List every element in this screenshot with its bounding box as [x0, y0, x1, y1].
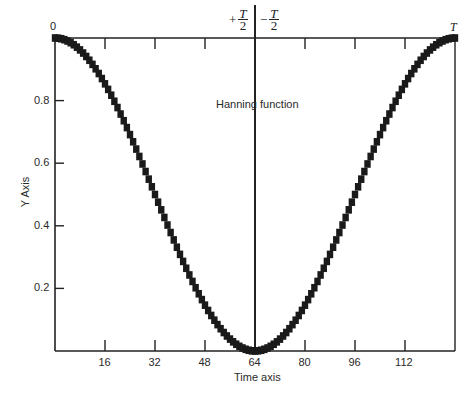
curve-marker	[346, 206, 352, 214]
plus-half-period-label: + T2	[229, 8, 248, 31]
curve-marker	[317, 271, 323, 279]
curve-marker	[327, 251, 333, 259]
curve-marker	[330, 243, 336, 251]
minus-half-period-label: − T2	[260, 8, 279, 31]
curve-marker	[114, 104, 120, 112]
curve-marker	[367, 153, 373, 161]
x-tick-label: 112	[395, 356, 413, 368]
curve-marker	[314, 278, 320, 286]
curve-marker	[117, 110, 123, 118]
curve-marker	[349, 198, 355, 206]
curve-marker	[152, 191, 158, 199]
curve-marker	[142, 168, 148, 176]
hanning-chart	[0, 0, 472, 393]
curve-marker	[155, 198, 161, 206]
curve-marker	[133, 145, 139, 153]
top-left-label: 0	[50, 20, 56, 32]
curve-marker	[121, 117, 127, 125]
curve-marker	[383, 117, 389, 125]
curve-marker	[124, 124, 130, 132]
curve-marker	[339, 221, 345, 229]
curve-marker	[342, 214, 348, 222]
curve-marker	[371, 145, 377, 153]
x-tick-label: 64	[248, 356, 260, 368]
y-axis-label: Y Axis	[19, 177, 31, 207]
curve-marker	[183, 264, 189, 272]
x-tick-label: 32	[148, 356, 160, 368]
curve-marker	[136, 153, 142, 161]
curve-marker	[186, 271, 192, 279]
x-tick-label: 48	[198, 356, 210, 368]
plot-frame	[55, 5, 455, 351]
curve-marker	[149, 183, 155, 191]
curve-marker	[171, 236, 177, 244]
curve-marker	[377, 131, 383, 139]
curve-marker	[333, 236, 339, 244]
x-tick-label: 80	[298, 356, 310, 368]
curve-marker	[336, 229, 342, 237]
curve-marker	[180, 258, 186, 266]
y-tick-label: 0.6	[34, 156, 49, 168]
curve-marker	[139, 160, 145, 168]
curve-marker	[158, 206, 164, 214]
x-tick-label: 16	[98, 356, 110, 368]
curve-marker	[130, 138, 136, 146]
curve-marker	[386, 110, 392, 118]
y-tick-label: 0.2	[34, 281, 49, 293]
curve-marker	[324, 258, 330, 266]
x-tick-label: 96	[348, 356, 360, 368]
curve-marker	[358, 175, 364, 183]
curve-marker	[177, 251, 183, 259]
curve-marker	[352, 191, 358, 199]
y-tick-label: 0.4	[34, 219, 49, 231]
curve-marker	[364, 160, 370, 168]
curve-marker	[127, 131, 133, 139]
curve-marker	[161, 214, 167, 222]
top-right-label: T	[450, 20, 457, 35]
curve-marker	[452, 34, 458, 42]
curve-marker	[167, 229, 173, 237]
curve-marker	[361, 168, 367, 176]
curve-marker	[374, 138, 380, 146]
y-tick-label: 0.8	[34, 94, 49, 106]
x-axis-label: Time axis	[234, 371, 281, 383]
curve-marker	[174, 243, 180, 251]
hanning-annotation: Hanning function	[216, 98, 299, 110]
curve-marker	[146, 175, 152, 183]
curve-marker	[164, 221, 170, 229]
curve-marker	[380, 124, 386, 132]
curve-marker	[355, 183, 361, 191]
curve-marker	[321, 264, 327, 272]
